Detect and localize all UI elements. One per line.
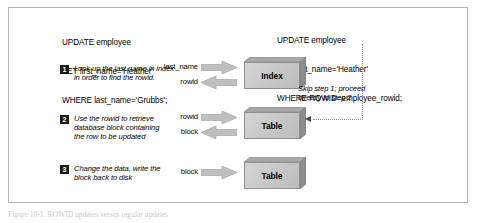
skip-path-vertical-line: [362, 44, 363, 120]
box-table-1-face: Table: [244, 112, 300, 139]
step-description-2: Use the rowid to retrieve database block…: [74, 114, 159, 142]
arrow-right-icon: [201, 60, 237, 73]
step-number-badge-1: 1: [60, 65, 69, 74]
step-number-badge-3: 3: [60, 165, 69, 174]
box-index-face: Index: [244, 62, 300, 89]
flow-label-block-from-table: block: [150, 127, 198, 136]
flow-label-rowid-to-table: rowid: [150, 112, 198, 121]
skip-path-arrowhead-icon: [305, 116, 311, 122]
step-description-3: Change the data, write the block back to…: [74, 164, 160, 182]
step-item-2: 2 Use the rowid to retrieve database blo…: [60, 114, 159, 142]
box-index-label: Index: [261, 71, 282, 81]
sql-left-line-3: WHERE last_name='Grubbs';: [62, 96, 167, 106]
box-table-1-label: Table: [262, 121, 283, 131]
figure-rowid-update-diagram: UPDATE employee SET first_name='Heather'…: [0, 0, 480, 223]
arrow-right-icon: [201, 165, 237, 178]
box-table-2-face: Table: [244, 162, 300, 189]
figure-caption: Figure 10-1. ROWID updates versus regula…: [8, 210, 472, 220]
arrow-left-icon: [201, 75, 237, 88]
arrow-left-icon: [201, 125, 237, 138]
flow-label-rowid-from-index: rowid: [150, 77, 198, 86]
node-box-table-1: Table: [244, 107, 306, 140]
flow-label-last-name: last_name: [150, 62, 198, 71]
step-item-3: 3 Change the data, write the block back …: [60, 164, 160, 182]
sql-right-line-1: UPDATE employee: [277, 36, 402, 46]
skip-step-annotation: Skip step 1; proceed directly to step 2: [298, 84, 365, 102]
box-table-2-label: Table: [262, 171, 283, 181]
flow-label-block-to-table: block: [150, 167, 198, 176]
node-box-index: Index: [244, 57, 306, 90]
node-box-table-2: Table: [244, 157, 306, 190]
skip-path-horizontal-line: [313, 119, 363, 120]
arrow-right-icon: [201, 110, 237, 123]
sql-left-line-1: UPDATE employee: [62, 38, 167, 48]
step-number-badge-2: 2: [60, 115, 69, 124]
